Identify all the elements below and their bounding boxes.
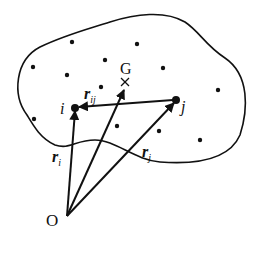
label-r-ij: rij	[84, 85, 96, 105]
center-of-mass-mark	[121, 78, 129, 86]
label-G: G	[120, 60, 132, 77]
vector-r-j	[67, 103, 174, 216]
label-i: i	[60, 100, 64, 117]
label-O: O	[46, 211, 58, 230]
body-outline	[18, 14, 245, 162]
particle-dots	[31, 40, 220, 142]
label-j: j	[179, 98, 186, 116]
label-r-i: ri	[52, 148, 61, 168]
diagram-canvas: O G i j rij ri rj	[0, 0, 253, 254]
particle-i	[71, 104, 79, 112]
